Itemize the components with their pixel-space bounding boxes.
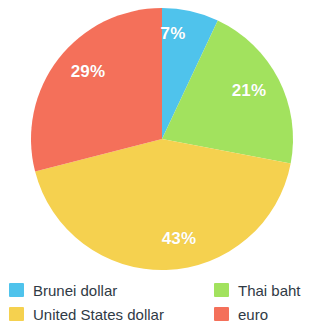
legend-label-euro: euro [238, 307, 268, 322]
pie-chart-figure: 7%21%43%29% Brunei dollar Thai baht Unit… [0, 0, 320, 328]
pie-slice-value-thai-baht: 21% [232, 81, 267, 101]
legend-label-thai-baht: Thai baht [238, 283, 301, 298]
legend-item-united-states-dollar[interactable]: United States dollar [0, 307, 212, 322]
legend-label-united-states-dollar: United States dollar [33, 307, 164, 322]
legend-item-euro[interactable]: euro [212, 307, 320, 322]
pie-chart-plot-area: 7%21%43%29% [0, 0, 320, 276]
chart-legend: Brunei dollar Thai baht United States do… [0, 278, 320, 328]
legend-swatch-thai-baht [214, 283, 229, 297]
legend-swatch-united-states-dollar [9, 307, 24, 321]
legend-label-brunei-dollar: Brunei dollar [33, 283, 117, 298]
pie-slice-value-euro: 29% [71, 62, 106, 82]
pie-slice-value-united-states-dollar: 43% [162, 229, 197, 249]
legend-item-brunei-dollar[interactable]: Brunei dollar [0, 283, 212, 298]
legend-swatch-euro [214, 307, 229, 321]
legend-item-thai-baht[interactable]: Thai baht [212, 283, 320, 298]
pie-slice-value-brunei-dollar: 7% [161, 24, 186, 44]
legend-swatch-brunei-dollar [9, 283, 24, 297]
